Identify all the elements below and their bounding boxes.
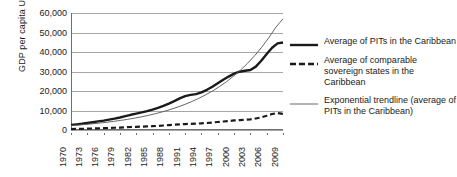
legend-entry: Average of comparable sovereign states i… (290, 55, 457, 88)
x-tick-mark (283, 133, 284, 135)
x-tick-label: 1979 (106, 133, 116, 167)
thin-solid-line-icon (290, 96, 318, 108)
x-tick-mark (185, 133, 186, 135)
legend-label: Exponential trendline (average of PITs i… (324, 95, 457, 117)
x-tick-label: 1997 (204, 133, 214, 167)
x-tick-mark (71, 133, 72, 135)
thick-dashed-line-icon (290, 56, 318, 68)
x-tick-label: 1994 (188, 133, 198, 167)
legend-entry: Average of PITs in the Caribbean (290, 36, 457, 48)
legend-entry: Exponential trendline (average of PITs i… (290, 95, 457, 117)
x-tick-label: 2000 (221, 133, 231, 167)
plot-area (71, 13, 283, 130)
legend-label: Average of comparable sovereign states i… (324, 55, 457, 88)
y-tick-label: 10,000 (7, 107, 67, 116)
x-tick-mark (201, 133, 202, 135)
x-tick-mark (234, 133, 235, 135)
legend: Average of PITs in the CaribbeanAverage … (290, 36, 457, 124)
x-tick-mark (87, 133, 88, 135)
x-tick-label: 2006 (253, 133, 263, 167)
x-tick-label: 1982 (123, 133, 133, 167)
x-tick-mark (136, 133, 137, 135)
x-tick-mark (104, 133, 105, 135)
x-tick-mark (218, 133, 219, 135)
y-axis-tick-labels: 010,00020,00030,00040,00050,00060,000 (3, 13, 67, 130)
x-tick-label: 1976 (90, 133, 100, 167)
y-tick-label: 60,000 (7, 9, 67, 18)
x-tick-label: 2009 (270, 133, 280, 167)
y-tick-label: 30,000 (7, 68, 67, 77)
x-tick-label: 2003 (237, 133, 247, 167)
x-tick-mark (250, 133, 251, 135)
x-tick-mark (153, 133, 154, 135)
y-tick-label: 50,000 (7, 29, 67, 38)
x-tick-label: 1970 (58, 133, 68, 167)
gridline (71, 130, 283, 131)
x-tick-label: 1973 (74, 133, 84, 167)
x-tick-mark (267, 133, 268, 135)
x-tick-mark (120, 133, 121, 135)
series-line-3 (71, 19, 283, 126)
series-line-1 (71, 42, 283, 124)
x-axis-tick-labels: 1970197319761979198219851988199119941997… (71, 133, 283, 173)
x-tick-label: 1991 (172, 133, 182, 167)
chart-figure: GDP per capita US $ 010,00020,00030,0004… (0, 0, 457, 177)
x-tick-label: 1988 (155, 133, 165, 167)
legend-label: Average of PITs in the Caribbean (324, 36, 456, 47)
x-tick-label: 1985 (139, 133, 149, 167)
series-container (71, 13, 283, 130)
thick-solid-line-icon (290, 37, 318, 49)
y-tick-label: 40,000 (7, 48, 67, 57)
y-tick-label: 20,000 (7, 87, 67, 96)
x-tick-mark (169, 133, 170, 135)
